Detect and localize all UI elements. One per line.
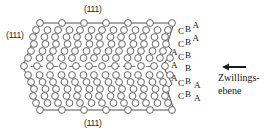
stacking-letter-b: B bbox=[185, 89, 191, 99]
stacking-row-5: A C B A bbox=[178, 74, 218, 87]
figure-canvas: (111) (111) (111) C B A C B A A C B A B … bbox=[0, 0, 275, 133]
plane-label-left: (111) bbox=[6, 30, 24, 40]
stacking-row-3: A C B bbox=[178, 48, 218, 61]
stacking-letter-a: A bbox=[171, 60, 178, 70]
stacking-letter-c: C bbox=[178, 52, 184, 62]
stacking-letter-b: B bbox=[185, 63, 191, 73]
stacking-letter-a: A bbox=[193, 20, 200, 30]
stacking-letter-b: B bbox=[185, 50, 191, 60]
stacking-row-6: C B A bbox=[178, 87, 218, 100]
stacking-letter-a: A bbox=[193, 33, 200, 43]
stacking-letter-c: C bbox=[178, 91, 184, 101]
stacking-letter-b: B bbox=[185, 76, 191, 86]
stacking-row-twin-plane: A B bbox=[178, 61, 218, 74]
stacking-letter-a: A bbox=[171, 47, 178, 57]
stacking-letter-c: C bbox=[178, 26, 184, 36]
atom-group bbox=[21, 20, 176, 114]
stacking-letter-c: C bbox=[178, 39, 184, 49]
stacking-letter-a: A bbox=[194, 93, 201, 103]
twin-plane-caption: Zwillings- ebene bbox=[218, 72, 260, 97]
plane-label-bottom: (111) bbox=[84, 118, 102, 128]
twin-plane-arrow-icon bbox=[222, 63, 246, 71]
stacking-letter-b: B bbox=[185, 37, 191, 47]
stacking-sequence: C B A C B A A C B A B A C B A C B A bbox=[178, 22, 218, 110]
stacking-letter-a: A bbox=[171, 73, 178, 83]
stacking-letter-b: B bbox=[185, 24, 191, 34]
stacking-row-2: C B A bbox=[178, 35, 218, 48]
plane-label-top: (111) bbox=[84, 4, 102, 14]
stacking-letter-c: C bbox=[178, 78, 184, 88]
